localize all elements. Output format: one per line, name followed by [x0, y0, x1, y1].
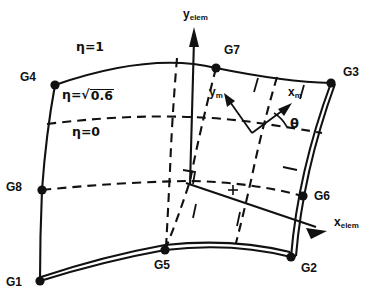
tick-grid-right	[283, 167, 297, 170]
iso-label-eta-sqrt: η=√0.6	[62, 88, 114, 102]
node-dot-G7	[211, 63, 220, 72]
node-dot-G4	[50, 80, 59, 89]
figure-canvas: G1 G2 G3 G4 G5 G6 G7 G8 η=1 η=√0.6 η=0 y…	[0, 0, 379, 304]
edge-left	[40, 85, 55, 281]
axis-x-m-arrowhead	[278, 103, 292, 116]
element-geometry-svg	[0, 0, 379, 304]
axis-y-m-arrowhead	[224, 93, 235, 107]
axis-x-elem-arrowhead	[306, 228, 327, 239]
axis-label-x-elem-base: x	[334, 215, 341, 229]
node-label-G8: G8	[6, 181, 22, 193]
dashed-line-xi-right	[236, 77, 277, 243]
dashed-line-eta-0	[42, 181, 303, 196]
tick-grid-top	[254, 78, 258, 92]
axis-label-y-elem-sub: elem	[190, 13, 208, 22]
iso-label-eta-sqrt-radicand: 0.6	[90, 89, 114, 103]
node-label-G5: G5	[154, 259, 170, 271]
iso-label-eta-0: η=0	[72, 126, 100, 139]
axis-x-elem-line	[186, 183, 316, 227]
node-dot-G3	[326, 78, 335, 87]
angle-label-theta: θ	[290, 117, 299, 130]
axis-label-y-m-sub: m	[216, 91, 223, 100]
node-dot-G6	[298, 191, 307, 200]
axis-y-m-line	[228, 99, 252, 133]
axis-label-x-m: xm	[288, 86, 302, 98]
node-dot-G8	[37, 185, 46, 194]
tick-grid-bottom-right	[237, 212, 240, 226]
node-dot-G1	[35, 276, 44, 285]
node-label-G6: G6	[314, 190, 330, 202]
axis-label-y-elem-base: y	[183, 7, 190, 21]
axis-label-x-elem-sub: elem	[341, 221, 359, 230]
iso-label-eta-sqrt-prefix: η=√	[62, 87, 90, 102]
axis-label-y-elem: yelem	[183, 8, 208, 20]
tick-grid-bottom-left	[193, 204, 196, 218]
node-label-G7: G7	[224, 44, 240, 56]
axis-label-x-m-sub: m	[295, 91, 302, 100]
axis-label-y-m-base: y	[209, 85, 216, 99]
node-dot-G2	[286, 252, 295, 261]
node-label-G2: G2	[301, 262, 317, 274]
node-label-G1: G1	[6, 276, 22, 288]
node-label-G3: G3	[343, 66, 359, 78]
dashed-line-xi-left	[166, 58, 177, 247]
node-dot-G5	[160, 245, 169, 254]
axis-y-elem-arrowhead	[189, 27, 199, 47]
axis-label-x-m-base: x	[288, 85, 295, 99]
iso-label-eta-1: η=1	[76, 41, 104, 54]
axis-label-y-m: ym	[209, 86, 223, 98]
node-label-G4: G4	[20, 71, 36, 83]
axis-label-x-elem: xelem	[334, 216, 359, 228]
